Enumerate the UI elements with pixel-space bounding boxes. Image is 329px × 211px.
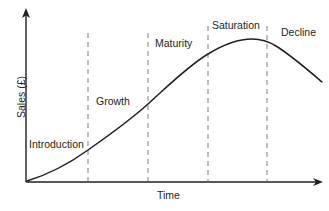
stage-label-maturity: Maturity — [155, 38, 192, 49]
stage-label-decline: Decline — [281, 27, 316, 38]
y-axis-title: Sales (£) — [16, 76, 27, 118]
stage-label-saturation: Saturation — [212, 20, 260, 31]
plc-chart-canvas — [0, 0, 329, 211]
x-axis-title: Time — [157, 190, 180, 201]
stage-label-introduction: Introduction — [29, 139, 84, 150]
stage-label-growth: Growth — [96, 96, 130, 107]
sales-curve — [27, 39, 322, 181]
product-life-cycle-diagram: Introduction Growth Maturity Saturation … — [0, 0, 329, 211]
